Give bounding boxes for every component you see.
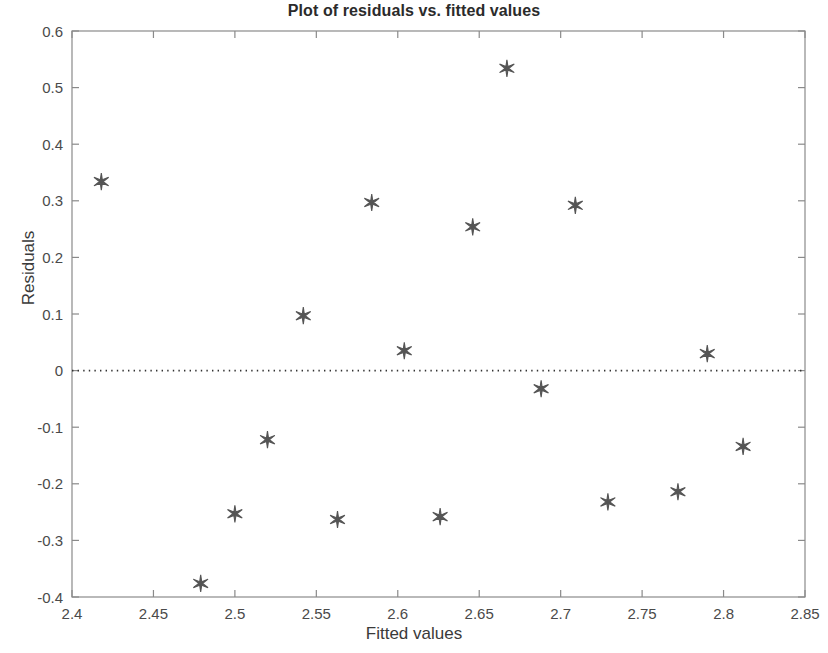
data-point (94, 173, 109, 190)
y-tick-label: 0.3 (42, 192, 63, 209)
data-point (500, 60, 515, 77)
data-point (601, 493, 616, 510)
data-point (260, 431, 275, 448)
x-tick-label: 2.5 (224, 605, 245, 622)
data-point (330, 511, 345, 528)
y-tick-label: 0 (55, 362, 63, 379)
y-tick-label: 0.2 (42, 249, 63, 266)
data-point (397, 342, 412, 359)
y-tick-label: 0.6 (42, 23, 63, 40)
data-point (534, 380, 549, 397)
x-tick-label: 2.7 (550, 605, 571, 622)
figure-canvas: Plot of residuals vs. fitted values 2.42… (0, 0, 828, 653)
data-point (228, 505, 243, 522)
data-point (296, 307, 311, 324)
y-tick-label: 0.5 (42, 79, 63, 96)
x-axis-ticks (72, 31, 805, 597)
x-tick-label: 2.55 (302, 605, 331, 622)
y-tick-label: -0.2 (37, 475, 63, 492)
y-axis-ticks (72, 31, 805, 597)
x-tick-label: 2.4 (62, 605, 83, 622)
x-tick-label: 2.8 (713, 605, 734, 622)
data-point (671, 483, 686, 500)
data-point (193, 575, 208, 592)
data-point (433, 508, 448, 525)
data-point (465, 218, 480, 235)
axis-frame (72, 31, 805, 597)
data-point (700, 345, 715, 362)
y-tick-label: 0.1 (42, 306, 63, 323)
y-tick-label: -0.4 (37, 589, 63, 606)
y-tick-label: -0.3 (37, 532, 63, 549)
data-point-series (94, 60, 751, 592)
data-point (736, 438, 751, 455)
scatter-plot: 2.42.452.52.552.62.652.72.752.82.85 -0.4… (0, 0, 828, 653)
x-tick-label: 2.85 (790, 605, 819, 622)
y-tick-label: 0.4 (42, 136, 63, 153)
x-tick-label: 2.6 (387, 605, 408, 622)
x-tick-label: 2.45 (139, 605, 168, 622)
y-axis-label: Residuals (19, 193, 39, 343)
x-tick-label: 2.75 (628, 605, 657, 622)
y-tick-label: -0.1 (37, 419, 63, 436)
x-axis-tick-labels: 2.42.452.52.552.62.652.72.752.82.85 (62, 605, 820, 622)
y-axis-tick-labels: -0.4-0.3-0.2-0.100.10.20.30.40.50.6 (37, 23, 63, 606)
data-point (364, 194, 379, 211)
data-point (568, 197, 583, 214)
x-tick-label: 2.65 (465, 605, 494, 622)
x-axis-label: Fitted values (0, 624, 828, 644)
